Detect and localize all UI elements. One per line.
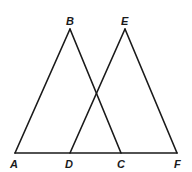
segments [15, 29, 177, 153]
label-c: C [117, 158, 126, 170]
geometry-diagram: A B C D E F [0, 0, 192, 172]
label-a: A [9, 158, 18, 170]
segment-ef [125, 29, 177, 153]
label-d: D [65, 158, 73, 170]
label-b: B [66, 15, 74, 27]
point-labels: A B C D E F [9, 15, 181, 170]
label-f: F [174, 158, 181, 170]
label-e: E [121, 15, 129, 27]
segment-ab [15, 29, 70, 153]
